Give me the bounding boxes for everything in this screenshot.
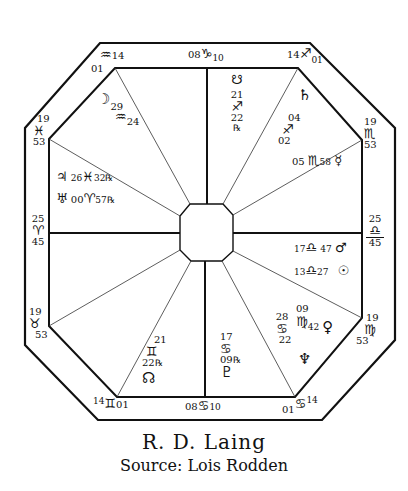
retrograde-icon: ℞	[233, 355, 241, 365]
cusp-deg: 14	[112, 50, 125, 61]
chart-source: Source: Lois Rodden	[0, 456, 408, 475]
planet-deg: 05	[292, 156, 305, 167]
planet-moon-sign: ♒24	[115, 110, 139, 123]
planet-deg: 00	[71, 194, 84, 205]
cusp-min: 53	[356, 336, 382, 346]
south-node-icon: ☋	[228, 73, 246, 86]
planet-min: 42	[308, 322, 319, 332]
cusp-right-top: 19 ♏ 53	[364, 117, 386, 150]
planet-saturn-pos: 04 ♐ 02	[278, 113, 301, 146]
aries-icon: ♈	[84, 191, 96, 206]
cusp-min: 01	[311, 55, 322, 65]
north-node-icon: ☊	[142, 371, 167, 386]
retrograde-icon: ℞	[228, 123, 246, 133]
sun-icon: ☉	[338, 263, 350, 278]
saturn-icon: ♄	[298, 86, 311, 104]
planet-min: 22	[278, 335, 292, 345]
retrograde-icon: ℞	[155, 358, 163, 368]
moon-icon: ☽	[97, 90, 110, 108]
planet-min: 22	[228, 113, 246, 123]
cusp-bottom-right: 01♋14	[282, 397, 318, 410]
aquarius-icon: ♒	[100, 47, 112, 62]
capricorn-icon: ♑	[201, 46, 213, 61]
cusp-top-left-min: 01	[91, 64, 104, 74]
planet-min: 57	[95, 195, 106, 205]
cusp-deg: 14	[93, 396, 104, 406]
cancer-icon: ♋	[198, 398, 210, 413]
cusp-left-bottom: 19 ♉ 53	[29, 307, 49, 340]
cusp-left-mid: 25 ♈ 45	[29, 214, 47, 247]
uranus-icon: ♅	[56, 191, 68, 206]
cusp-top-center: 08♑10	[188, 47, 224, 60]
retrograde-icon: ℞	[105, 173, 113, 183]
planet-sun: 13♎27 ☉	[294, 264, 349, 277]
planet-min: 27	[317, 267, 328, 277]
libra-icon: ♎	[366, 224, 384, 238]
planet-deg: 17	[294, 244, 305, 254]
mercury-icon: ☿	[334, 153, 342, 168]
venus-icon: ♀	[322, 318, 333, 336]
cusp-min: 10	[212, 53, 223, 63]
planet-deg: 26	[71, 173, 82, 183]
libra-icon: ♎	[305, 240, 317, 255]
neptune-glyph: ♆	[298, 352, 311, 367]
pluto-icon: ♇	[220, 365, 242, 380]
cusp-min: 53	[35, 330, 49, 340]
planet-uranus: ♅ 00♈57℞	[56, 192, 115, 205]
cusp-min: 01	[91, 63, 104, 74]
cusp-deg: 08	[185, 401, 198, 412]
gemini-icon: ♊	[104, 396, 116, 411]
aquarius-icon: ♒	[115, 109, 127, 124]
planet-min: 47	[320, 244, 331, 254]
center-octagon	[180, 204, 233, 261]
virgo-icon: ♍	[296, 314, 308, 329]
cusp-top-right: 14♐01	[287, 47, 323, 60]
planet-north-node: 21 ♊ 22℞ ☊	[142, 335, 167, 386]
planet-min: 24	[127, 116, 140, 127]
planet-min: 58	[320, 157, 331, 167]
retrograde-icon: ℞	[107, 195, 115, 205]
planet-venus: 09 ♍42 ♀	[296, 304, 333, 329]
cancer-icon: ♋	[295, 396, 307, 411]
cusp-min: 53	[31, 137, 47, 147]
cusp-min: 53	[364, 140, 386, 150]
cusp-deg: 08	[188, 49, 201, 60]
cusp-right-bottom: 19 ♍ 53	[356, 313, 382, 346]
planet-deg: 13	[294, 267, 305, 277]
cusp-deg: 14	[287, 49, 300, 60]
cusp-right-mid: 25 ♎ 45	[366, 214, 384, 248]
planet-neptune: 28 ♋ 22	[272, 312, 292, 345]
planet-mars: 17♎ 47 ♂	[294, 241, 347, 254]
cusp-deg: 14	[306, 395, 317, 405]
scorpio-icon: ♏	[308, 153, 320, 168]
jupiter-icon: ♃	[56, 169, 68, 184]
planet-min: 02	[278, 136, 301, 146]
planet-pluto: 17 ♋ 09℞ ♇	[220, 332, 242, 380]
chart-title: R. D. Laing	[0, 430, 408, 454]
chart-frame	[0, 0, 408, 430]
cusp-min: 01	[282, 404, 295, 415]
cusp-min: 45	[366, 238, 384, 248]
libra-icon: ♎	[305, 263, 317, 278]
cusp-min: 10	[209, 402, 220, 412]
planet-min: 32	[94, 173, 105, 183]
cusp-bottom-left: 14♊01	[93, 397, 129, 410]
neptune-icon: ♆	[298, 350, 311, 368]
cusp-min: 01	[116, 399, 129, 410]
planet-moon: ☽29	[97, 92, 123, 107]
mars-icon: ♂	[335, 240, 347, 255]
planet-jupiter: ♃ 26♓32℞	[56, 170, 113, 183]
pisces-icon: ♓	[82, 169, 94, 184]
planet-mercury: 05 ♏58 ☿	[292, 154, 342, 167]
planet-min: 22	[142, 357, 155, 368]
cusp-left-top: 19 ♓ 53	[31, 114, 47, 147]
cusp-min: 45	[29, 237, 47, 247]
sagittarius-icon: ♐	[300, 46, 312, 61]
planet-south-node: ☋ 21 ♐ 22 ℞	[228, 73, 246, 133]
cusp-top-left: ♒14	[100, 48, 124, 61]
planet-saturn: ♄	[298, 88, 311, 103]
cusp-bottom-center: 08♋10	[185, 399, 221, 412]
planet-deg: 09	[296, 304, 333, 314]
